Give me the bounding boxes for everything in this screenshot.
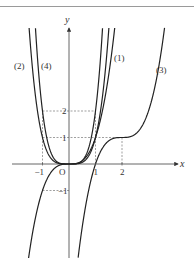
curve-label: (1) bbox=[114, 53, 125, 63]
origin-label: O bbox=[59, 167, 66, 177]
x-axis-label: x bbox=[179, 158, 185, 169]
function-plot: x y O −11221−1 (2)(4)(1)(3) bbox=[0, 0, 194, 268]
y-tick-label: 1 bbox=[62, 133, 67, 143]
x-tick-label: 2 bbox=[120, 167, 125, 177]
curve-label: (2) bbox=[14, 61, 25, 71]
y-axis-label: y bbox=[64, 14, 70, 25]
x-tick-label: 1 bbox=[94, 167, 99, 177]
y-tick-label: 2 bbox=[62, 106, 67, 116]
x-tick-label: −1 bbox=[35, 167, 45, 177]
curve-label: (3) bbox=[156, 65, 167, 75]
tick-labels: −11221−1 bbox=[35, 106, 125, 196]
dashed-guide-lines bbox=[43, 111, 123, 191]
curve-label: (4) bbox=[41, 61, 52, 71]
y-tick-label: −1 bbox=[58, 186, 68, 196]
